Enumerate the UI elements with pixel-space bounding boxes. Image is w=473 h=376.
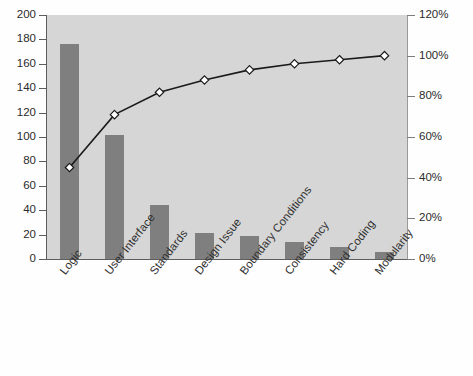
pareto-chart: 020406080100120140160180200 0%20%40%60%8… [0, 0, 473, 376]
category-label-consistency: Consistency [282, 219, 331, 277]
category-label-design-issue: Design Issue [192, 216, 243, 277]
category-label-logic: Logic [57, 247, 84, 276]
category-labels: LogicUser InterfaceStandardsDesign Issue… [0, 0, 473, 376]
category-label-hard-coding: Hard Coding [327, 218, 377, 277]
category-label-modularity: Modularity [372, 227, 415, 277]
category-label-standards: Standards [147, 227, 189, 276]
